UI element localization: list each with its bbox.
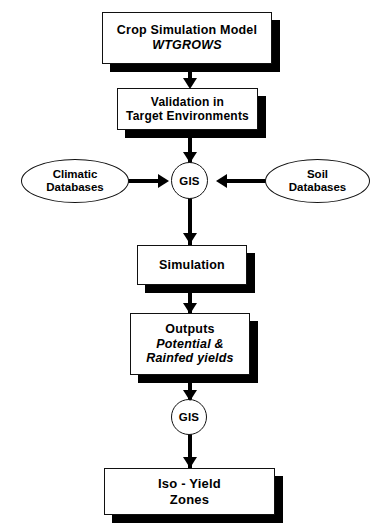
- climatic-databases-line-2: Databases: [46, 181, 104, 194]
- iso-yield-zones-line-1: Iso - Yield: [158, 476, 221, 491]
- node-validation[interactable]: Validation in Target Environments: [117, 88, 258, 130]
- node-outputs[interactable]: Outputs Potential & Rainfed yields: [130, 313, 250, 375]
- outputs-line-3: Rainfed yields: [146, 351, 234, 366]
- node-gis-top[interactable]: GIS: [171, 162, 208, 199]
- validation-line-2: Target Environments: [126, 109, 249, 123]
- node-crop-simulation-model[interactable]: Crop Simulation Model WTGROWS: [102, 12, 272, 64]
- flowchart-canvas: Crop Simulation Model WTGROWS Validation…: [0, 0, 379, 530]
- outputs-line-1: Outputs: [165, 322, 214, 337]
- edge-climatic-to-gis-arrow: [158, 174, 169, 188]
- outputs-line-2: Potential &: [156, 337, 223, 352]
- climatic-databases-line-1: Climatic: [53, 168, 98, 181]
- validation-line-1: Validation in: [151, 95, 224, 109]
- soil-databases-line-1: Soil: [307, 168, 328, 181]
- edge-crop-model-to-validation-arrow: [183, 78, 197, 89]
- edge-validation-to-gis-arrow: [183, 152, 197, 163]
- iso-yield-zones-line-2: Zones: [170, 492, 209, 507]
- node-climatic-databases[interactable]: Climatic Databases: [21, 159, 129, 203]
- gis-top-label: GIS: [179, 175, 199, 187]
- edge-outputs-to-gis-arrow: [183, 390, 197, 401]
- node-simulation[interactable]: Simulation: [137, 245, 247, 285]
- node-iso-yield-zones[interactable]: Iso - Yield Zones: [104, 468, 275, 515]
- edge-simulation-to-outputs-arrow: [183, 303, 197, 314]
- crop-simulation-model-line-1: Crop Simulation Model: [117, 23, 257, 38]
- node-gis-bottom[interactable]: GIS: [171, 399, 207, 435]
- edge-gis-to-simulation-arrow: [183, 233, 197, 244]
- soil-databases-line-2: Databases: [289, 181, 347, 194]
- gis-bottom-label: GIS: [179, 411, 199, 423]
- crop-simulation-model-line-2: WTGROWS: [152, 38, 221, 53]
- edge-soil-to-gis-arrow: [216, 174, 227, 188]
- edge-gis-to-iso-yield-arrow: [183, 457, 197, 468]
- node-soil-databases[interactable]: Soil Databases: [265, 159, 370, 203]
- simulation-line-1: Simulation: [159, 258, 225, 273]
